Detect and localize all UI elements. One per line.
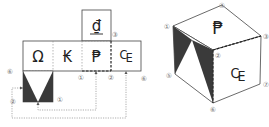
label: ③ <box>263 33 269 41</box>
label: ② <box>215 52 221 60</box>
label: ① <box>57 96 63 104</box>
net-top-glyph: ₫ <box>92 17 102 35</box>
net-face-peso: ₱ <box>92 48 102 66</box>
net-face-euro-currency: ₠ <box>119 48 132 66</box>
label: ⑥ <box>141 75 147 83</box>
label: ⑥ <box>210 106 216 114</box>
label: ① <box>164 23 170 31</box>
label: ② <box>108 74 114 82</box>
cube-top-glyph: ₱ <box>213 18 224 38</box>
cube-net-diagram: ₫ Ω ₭ ₱ ₠ <box>0 0 269 127</box>
label: ① <box>78 74 84 82</box>
label: ⑦ <box>263 81 269 89</box>
label: ③ <box>112 31 118 39</box>
label: ② <box>10 98 16 106</box>
label: ④ <box>219 2 225 10</box>
net-face-kip: ₭ <box>63 48 73 66</box>
label: ⑤ <box>166 72 172 80</box>
net-face-omega: Ω <box>32 48 43 66</box>
label: ⑥ <box>7 68 13 76</box>
cube-front-glyph: ₠ <box>231 65 246 85</box>
cube-net: ₫ Ω ₭ ₱ ₠ <box>12 10 141 118</box>
